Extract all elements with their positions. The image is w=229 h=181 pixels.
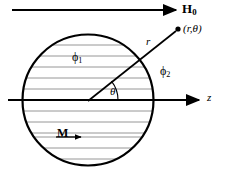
applied-field-label: H0: [182, 2, 197, 15]
potential-inside-subscript: 1: [78, 56, 82, 65]
applied-field-subscript: 0: [192, 7, 196, 17]
magnetization-label: M: [57, 127, 68, 139]
applied-field-symbol: H: [182, 1, 192, 16]
field-point-label: (r,θ): [183, 23, 202, 34]
potential-outside-subscript: 2: [166, 70, 170, 79]
radius-label: r: [146, 36, 150, 47]
magnetized-sphere-figure: H0 (r,θ) r ϕ1 ϕ2 θ z M: [0, 0, 229, 181]
polar-angle-label: θ: [110, 86, 115, 97]
z-axis-label: z: [207, 92, 211, 103]
potential-outside-label: ϕ2: [160, 65, 170, 77]
field-point-marker: [175, 26, 180, 31]
potential-inside-label: ϕ1: [72, 51, 82, 63]
